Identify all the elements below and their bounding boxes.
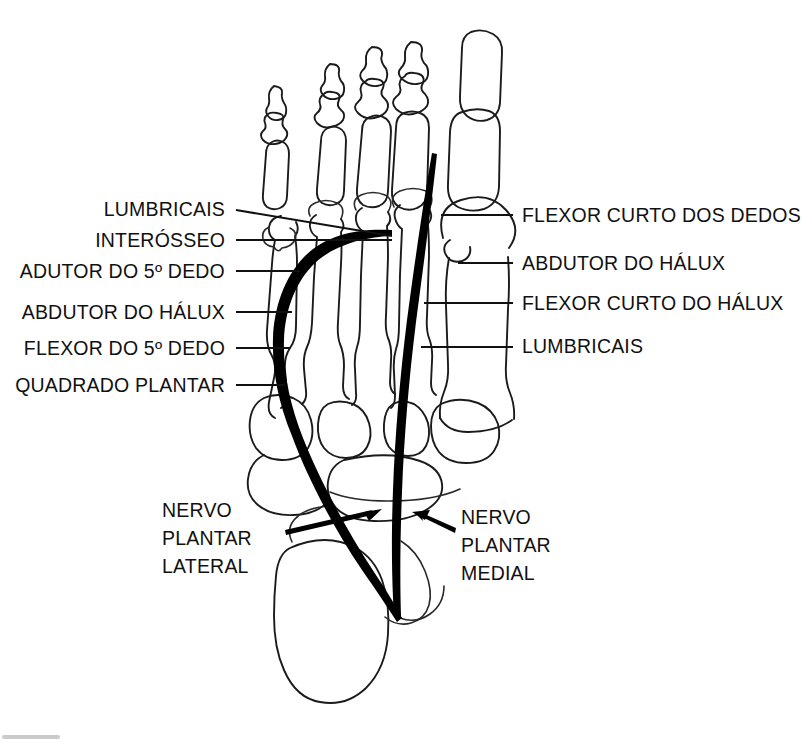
bone-phalanx-distal-3 [360, 47, 387, 86]
label-abdutor-do-halux-left: ABDUTOR DO HÁLUX [22, 301, 225, 323]
calcaneus-group [274, 506, 444, 703]
bone-cuneiform-lateral [318, 402, 371, 459]
bone-metatarsal-4 [302, 215, 317, 404]
label-quadrado-plantar: QUADRADO PLANTAR [15, 374, 225, 396]
label-lumbricais-right: LUMBRICAIS [522, 335, 643, 357]
bone-metatarsal-1-head [441, 197, 515, 248]
scan-artifact [2, 735, 60, 739]
foot-anatomy-diagram: LUMBRICAIS INTERÓSSEO ADUTOR DO 5º DEDO … [0, 0, 803, 744]
label-abdutor-do-halux-right: ABDUTOR DO HÁLUX [522, 252, 725, 274]
labels-left-group: LUMBRICAIS INTERÓSSEO ADUTOR DO 5º DEDO … [15, 198, 225, 396]
label-adutor-do-5-dedo: ADUTOR DO 5º DEDO [20, 260, 225, 282]
bone-metatarsal-2 [391, 205, 402, 408]
bone-phalanx-middle-3 [355, 79, 388, 119]
label-nervo-plantar-lateral-group: NERVO PLANTAR LATERAL [162, 499, 252, 577]
label-flexor-curto-dos-dedos: FLEXOR CURTO DOS DEDOS [522, 204, 801, 226]
label-flexor-curto-do-halux: FLEXOR CURTO DO HÁLUX [522, 292, 783, 314]
label-nervo-plantar-lateral-line-2: PLANTAR [162, 527, 252, 549]
bone-phalanx-middle-2 [393, 73, 428, 115]
bone-metatarsal-1-base [440, 418, 512, 432]
bone-phalanx-distal-1-hallux [460, 30, 502, 121]
label-nervo-plantar-lateral-line-1: NERVO [162, 499, 232, 521]
bone-phalanx-middle-5 [261, 113, 287, 145]
phalanges-group [261, 30, 502, 210]
bone-phalanx-middle-4 [315, 92, 345, 128]
figure-canvas: LUMBRICAIS INTERÓSSEO ADUTOR DO 5º DEDO … [0, 0, 803, 744]
label-lumbricais-left: LUMBRICAIS [104, 198, 225, 220]
label-flexor-do-5-dedo: FLEXOR DO 5º DEDO [24, 337, 225, 359]
label-interosseo: INTERÓSSEO [95, 229, 225, 251]
leader-lumbricais-left [236, 210, 392, 236]
bone-calcaneus-outline [274, 540, 388, 703]
bone-phalanx-proximal-1-hallux [448, 109, 500, 210]
label-nervo-plantar-medial-line-2: PLANTAR [461, 534, 551, 556]
metatarsals-group [263, 189, 516, 433]
bone-calcaneus-sustentaculum [400, 586, 444, 620]
bone-metatarsal-5-head [263, 227, 296, 251]
label-nervo-plantar-medial-line-3: MEDIAL [461, 562, 535, 584]
label-nervo-plantar-lateral-line-3: LATERAL [162, 555, 249, 577]
label-nervo-plantar-medial-line-1: NERVO [461, 506, 531, 528]
bone-phalanx-proximal-2 [392, 112, 429, 210]
bone-phalanx-proximal-3 [357, 116, 391, 208]
leader-lines-right [421, 215, 513, 347]
arrowhead-nervo-plantar-lateral [364, 509, 382, 521]
bone-phalanx-proximal-5 [263, 141, 289, 210]
labels-right-group: FLEXOR CURTO DOS DEDOS ABDUTOR DO HÁLUX … [522, 204, 801, 357]
nervo-plantar-lateral-path [273, 230, 402, 622]
label-nervo-plantar-medial-group: NERVO PLANTAR MEDIAL [461, 506, 551, 584]
bone-metatarsal-1-shaft-medial [506, 257, 514, 419]
bone-phalanx-proximal-4 [317, 127, 346, 206]
bone-metatarsal-1-shaft-lateral [440, 258, 449, 418]
